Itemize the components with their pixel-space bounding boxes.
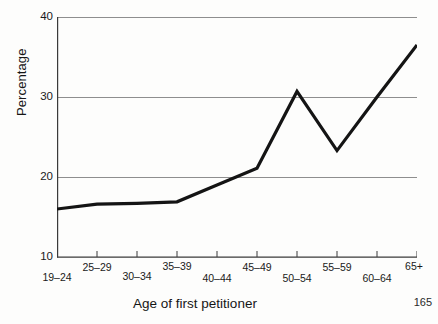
x-tick-label-30-34: 30–34: [122, 271, 151, 282]
x-tick-label-19-24: 19–24: [42, 272, 71, 283]
axis-lines: [57, 17, 417, 258]
x-tick-label-45-49: 45–49: [242, 262, 271, 273]
x-tick-label-60-64: 60–64: [362, 273, 391, 284]
x-tick-label-65-plus: 65+: [405, 261, 423, 272]
x-tick-label-50-54: 50–54: [282, 273, 311, 284]
x-tick-label-40-44: 40–44: [202, 273, 231, 284]
plot-area: [57, 17, 417, 257]
y-tick-label-20: 20: [29, 171, 53, 183]
x-axis-tick-labels: 19–24 25–29 30–34 35–39 40–44 45–49 50–5…: [0, 259, 438, 293]
x-tick-label-35-39: 35–39: [162, 261, 191, 272]
data-series-line: [57, 45, 417, 209]
gridlines: [57, 18, 417, 178]
y-axis-title: Percentage: [14, 6, 29, 116]
x-tick-label-55-59: 55–59: [322, 262, 351, 273]
y-tick-label-40: 40: [29, 11, 53, 23]
page-number: 165: [414, 296, 432, 308]
chart-figure: Percentage 40 30 20 10: [0, 0, 438, 324]
x-axis-title: Age of first petitioner: [0, 296, 390, 311]
x-tick-label-25-29: 25–29: [82, 262, 111, 273]
line-chart-svg: [57, 17, 417, 258]
y-tick-label-30: 30: [29, 91, 53, 103]
x-tick-marks: [57, 251, 417, 257]
